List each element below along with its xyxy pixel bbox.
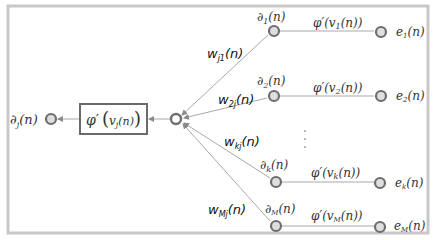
backprop-diagram: φ′(vj(n)) ∂j(n) wj1(n) w2j(n) wkj(n) wMj… bbox=[0, 0, 436, 240]
weight-label-1: wj1(n) bbox=[207, 46, 243, 63]
branch-lines bbox=[280, 31, 374, 226]
error-label-k: ek(n) bbox=[395, 176, 424, 191]
phi-label-2: φ′(v2(n)) bbox=[313, 81, 363, 96]
error-label-1: e1(n) bbox=[396, 25, 425, 40]
error-node-M bbox=[375, 222, 385, 232]
error-node-2 bbox=[376, 91, 386, 101]
phi-label-M: φ′(vM(n)) bbox=[311, 209, 363, 224]
error-label-M: eM(n) bbox=[394, 219, 426, 234]
phi-label-k: φ′(vk(n)) bbox=[311, 166, 361, 181]
delta-node-1 bbox=[269, 26, 279, 36]
delta-node-2 bbox=[269, 91, 279, 101]
delta-label-k: ∂k(n) bbox=[260, 158, 288, 174]
center-summing-node bbox=[171, 114, 181, 124]
branch-2: ∂2(n) φ′(v2(n)) e2(n) bbox=[257, 74, 425, 104]
edge-k bbox=[184, 123, 270, 178]
weight-label-2: w2j(n) bbox=[218, 92, 254, 109]
weight-edges bbox=[182, 35, 270, 221]
weight-label-M: wMj(n) bbox=[208, 202, 246, 219]
phi-label-1: φ′(v1(n)) bbox=[313, 16, 363, 31]
error-node-k bbox=[375, 178, 385, 188]
delta-label-1: ∂1(n) bbox=[257, 10, 286, 26]
branch-1: ∂1(n) φ′(v1(n)) e1(n) bbox=[257, 10, 425, 40]
error-label-2: e2(n) bbox=[396, 89, 425, 104]
output-delta-node bbox=[46, 114, 56, 124]
delta-node-M bbox=[271, 221, 281, 231]
weight-label-k: wkj(n) bbox=[224, 134, 260, 151]
error-node-1 bbox=[376, 27, 386, 37]
branch-k: ∂k(n) φ′(vk(n)) ek(n) bbox=[260, 158, 424, 191]
delta-label-M: ∂M(n) bbox=[265, 202, 296, 217]
output-delta-label: ∂j(n) bbox=[10, 112, 38, 129]
ellipsis-dots bbox=[304, 130, 306, 148]
delta-label-2: ∂2(n) bbox=[257, 74, 286, 90]
branch-M: ∂M(n) φ′(vM(n)) eM(n) bbox=[265, 202, 426, 234]
delta-node-k bbox=[271, 177, 281, 187]
